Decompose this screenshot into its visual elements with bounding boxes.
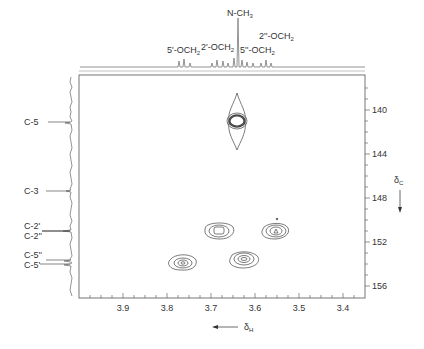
proton-projection: N-CH3 2''-OCH2 5'-OCH2 2'-OCH2 5''-OCH2 xyxy=(79,8,365,71)
svg-text:δH: δH xyxy=(244,322,253,333)
label-c2pp: C-2'' xyxy=(24,231,42,241)
cross-peak-c5p xyxy=(169,255,197,270)
carbon-spectrum-trace xyxy=(63,77,72,296)
svg-text:3.8: 3.8 xyxy=(161,303,174,313)
svg-text:148: 148 xyxy=(372,193,387,203)
label-c5pp: C-5'' xyxy=(24,250,42,260)
hmbc-chart: N-CH3 2''-OCH2 5'-OCH2 2'-OCH2 5''-OCH2 … xyxy=(0,0,424,349)
svg-text:156: 156 xyxy=(372,281,387,291)
label-5p-och2: 5'-OCH2 xyxy=(167,45,201,56)
cross-peak-c2pp xyxy=(262,218,289,239)
left-arrow-icon xyxy=(212,325,218,329)
svg-text:3.7: 3.7 xyxy=(205,303,218,313)
cross-peak-c5pp xyxy=(230,252,259,268)
svg-text:3.5: 3.5 xyxy=(293,303,306,313)
svg-text:3.6: 3.6 xyxy=(249,303,262,313)
label-c5: C-5 xyxy=(24,117,39,127)
y-tick-labels: 140 144 148 152 156 xyxy=(372,105,387,291)
y-axis xyxy=(365,88,370,286)
x-axis xyxy=(90,293,354,298)
svg-text:140: 140 xyxy=(372,105,387,115)
cross-peak-c5 xyxy=(227,93,247,150)
carbon-projection: C-5 C-3 C-2' C-2'' C-5'' C-5' xyxy=(24,77,72,296)
x-tick-labels: 3.9 3.8 3.7 3.6 3.5 3.4 xyxy=(117,303,350,313)
cross-peak-c2p xyxy=(205,223,234,239)
label-2pp-och2: 2''-OCH2 xyxy=(259,31,294,42)
x-axis-title: δH xyxy=(212,322,253,333)
svg-text:δC: δC xyxy=(394,175,404,186)
down-arrow-icon xyxy=(398,207,402,213)
label-n-ch3: N-CH3 xyxy=(227,8,254,19)
label-2p-och2: 2'-OCH2 xyxy=(201,42,235,53)
svg-text:144: 144 xyxy=(372,149,387,159)
label-c5p: C-5' xyxy=(24,260,41,270)
svg-text:152: 152 xyxy=(372,237,387,247)
plot-area xyxy=(79,75,365,298)
cross-peaks xyxy=(169,93,289,270)
label-5pp-och2: 5''-OCH2 xyxy=(240,45,275,56)
svg-text:3.9: 3.9 xyxy=(117,303,130,313)
y-axis-title: δC xyxy=(394,175,404,213)
label-c3: C-3 xyxy=(24,186,39,196)
svg-text:3.4: 3.4 xyxy=(337,303,350,313)
label-c2p: C-2' xyxy=(24,221,41,231)
